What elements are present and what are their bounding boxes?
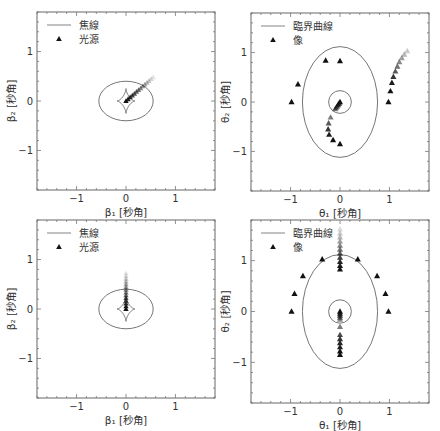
x-axis-label: β₁ [秒角] [105,206,147,218]
panel-top-right-image-plane: −101−101θ₁ [秒角]θ₂ [秒角]臨界曲線像 [219,13,429,219]
triangle-marker [337,99,343,104]
triangle-marker [56,244,62,249]
triangle-marker [289,99,295,104]
plot-area [289,47,411,158]
legend-label: 臨界曲線 [293,20,333,32]
y-axis-label: θ₂ [秒角] [219,290,231,332]
x-tick-label: −1 [283,406,298,417]
y-axis-label: β₂ [秒角] [5,80,17,122]
y-tick-label: −1 [18,145,33,156]
plot-area [99,74,156,120]
triangle-marker [355,256,361,261]
triangle-marker [382,291,388,296]
triangle-marker [390,74,396,79]
triangle-marker [295,81,301,86]
triangle-marker [319,256,325,261]
y-tick-label: 1 [241,255,247,266]
x-axis-label: θ₁ [秒角] [319,207,361,219]
triangle-marker [300,273,306,278]
triangle-marker [325,126,331,131]
x-tick-label: 0 [123,401,129,412]
panel-bottom-right-image-plane: −101−101θ₁ [秒角]θ₂ [秒角]臨界曲線像 [219,220,429,431]
x-tick-label: 1 [172,401,178,412]
legend-label: 光源 [79,241,99,253]
y-tick-label: 0 [27,304,33,315]
y-tick-label: 0 [241,306,247,317]
x-axis-label: β₁ [秒角] [105,414,147,426]
triangle-marker [270,244,276,249]
legend-label: 臨界曲線 [293,227,333,239]
figure: −101−101β₁ [秒角]β₂ [秒角]焦線光源 −101−101θ₁ [秒… [0,0,440,431]
triangle-marker [56,36,62,41]
legend-label: 像 [293,35,303,46]
triangle-marker [337,308,343,313]
triangle-marker [337,58,343,63]
y-tick-label: 1 [241,47,247,58]
triangle-marker [289,308,295,313]
triangle-marker [330,137,336,142]
triangle-marker [385,308,391,313]
legend-label: 焦線 [79,19,99,31]
x-tick-label: −1 [283,194,298,205]
x-tick-label: −1 [69,401,84,412]
y-tick-label: 1 [27,254,33,265]
x-tick-label: 1 [386,194,392,205]
triangle-marker [326,131,332,136]
triangle-marker [337,324,343,329]
x-tick-label: 0 [123,193,129,204]
x-tick-label: 0 [337,194,343,205]
y-axis-label: β₂ [秒角] [5,288,17,330]
legend-label: 焦線 [79,227,99,239]
y-tick-label: −1 [232,357,247,368]
triangle-marker [389,80,395,85]
x-tick-label: 1 [386,406,392,417]
panel-top-left-source-plane: −101−101β₁ [秒角]β₂ [秒角]焦線光源 [5,12,215,218]
x-axis-label: θ₁ [秒角] [319,419,361,431]
y-tick-label: 0 [27,96,33,107]
plot-area [289,226,392,368]
x-tick-label: 0 [337,406,343,417]
triangle-marker [392,68,398,73]
panel-bottom-left-source-plane: −101−101β₁ [秒角]β₂ [秒角]焦線光源 [5,220,215,426]
x-tick-label: 1 [172,193,178,204]
y-tick-label: 1 [27,46,33,57]
x-tick-label: −1 [69,193,84,204]
triangle-marker [328,114,334,119]
y-axis-label: θ₂ [秒角] [219,81,231,123]
triangle-marker [387,88,393,93]
triangle-marker [374,273,380,278]
triangle-marker [291,291,297,296]
y-tick-label: 0 [241,97,247,108]
triangle-marker [404,48,410,53]
triangle-marker [323,57,329,62]
legend-label: 像 [293,242,303,253]
legend-label: 光源 [79,33,99,45]
triangle-marker [337,141,343,146]
triangle-marker [270,37,276,42]
y-tick-label: −1 [232,146,247,157]
plot-area [99,271,153,329]
y-tick-label: −1 [18,353,33,364]
triangle-marker [385,99,391,104]
triangle-marker [326,120,332,125]
